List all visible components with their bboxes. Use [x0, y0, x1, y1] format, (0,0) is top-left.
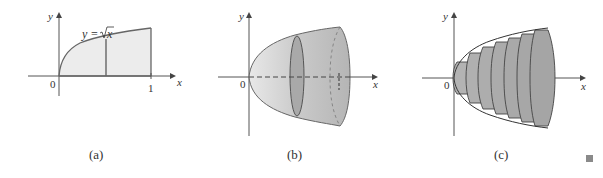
- panel-a: y x 0 1 y = x: [28, 10, 182, 96]
- caption-c: (c): [494, 147, 508, 163]
- proof-end-square-icon: [586, 155, 593, 162]
- curve-label-lhs: y =: [81, 27, 98, 41]
- panel-b: y x 0: [218, 10, 378, 136]
- origin-label: 0: [240, 78, 246, 90]
- panel-c: y x 0: [422, 10, 586, 136]
- cross-section-disk: [290, 36, 304, 116]
- y-axis-arrow-icon: [246, 12, 252, 18]
- caption-b: (b): [287, 147, 302, 163]
- approximating-disks: [453, 30, 555, 126]
- y-axis-label: y: [442, 10, 448, 22]
- origin-label: 0: [50, 78, 56, 90]
- y-axis-arrow-icon: [451, 12, 457, 18]
- curve-label: y = x: [81, 27, 114, 41]
- x-axis-label: x: [176, 76, 182, 88]
- x-axis-arrow-icon: [170, 73, 176, 79]
- curve-label-radicand: x: [106, 27, 113, 41]
- y-axis-label: y: [47, 10, 53, 22]
- x-axis-label: x: [372, 78, 378, 90]
- caption-a: (a): [89, 147, 103, 163]
- x-tick-label: 1: [148, 82, 154, 94]
- disk-7: [530, 30, 555, 126]
- x-axis-label: x: [580, 80, 586, 92]
- origin-label: 0: [444, 79, 450, 91]
- y-axis-label: y: [238, 10, 244, 22]
- y-axis-arrow-icon: [56, 12, 62, 18]
